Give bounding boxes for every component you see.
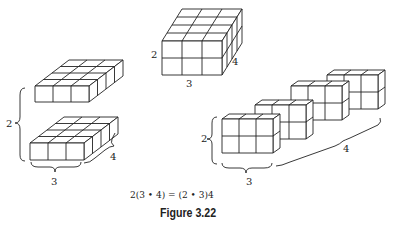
left-depth-label: 4 (110, 152, 116, 162)
equation: 2(3 • 4) = (2 • 3)4 (130, 190, 214, 200)
center-width-label: 3 (186, 79, 192, 89)
figure-caption: Figure 3.22 (160, 206, 216, 220)
center-depth-label: 4 (232, 57, 238, 67)
center-height-label: 2 (151, 50, 157, 60)
left-width-label: 3 (51, 177, 57, 187)
right-height-label: 2 (201, 134, 207, 144)
left-height-label: 2 (6, 119, 12, 129)
right-width-label: 3 (246, 177, 252, 187)
right-depth-label: 4 (343, 144, 349, 154)
